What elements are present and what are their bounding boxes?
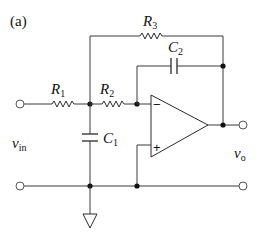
c2-label: C2 (168, 39, 183, 57)
input-terminal (16, 100, 24, 108)
node-output (220, 122, 225, 127)
resistor-r1 (52, 101, 90, 107)
r3-label: R3 (142, 13, 157, 31)
circuit-diagram: (a) R1 R2 R3 C2 (0, 0, 261, 242)
resistor-r2 (90, 101, 137, 107)
input-ground-terminal (16, 182, 24, 190)
inverting-sign: − (153, 97, 161, 112)
capacitor-c1 (82, 104, 98, 186)
figure-tag: (a) (10, 13, 27, 30)
output-terminal (239, 121, 247, 129)
noninverting-sign: + (153, 140, 161, 155)
r1-label: R1 (50, 81, 65, 99)
node-c2-output (220, 63, 225, 68)
c1-label: C1 (103, 130, 118, 148)
r2-label: R2 (99, 81, 114, 99)
noninverting-input-wire (137, 145, 151, 186)
vo-label: vo (234, 145, 246, 163)
output-ground-terminal (239, 182, 247, 190)
capacitor-c2 (137, 58, 223, 104)
vin-label: vin (12, 135, 26, 153)
ground-icon (83, 186, 97, 228)
node-ground-2 (134, 183, 139, 188)
